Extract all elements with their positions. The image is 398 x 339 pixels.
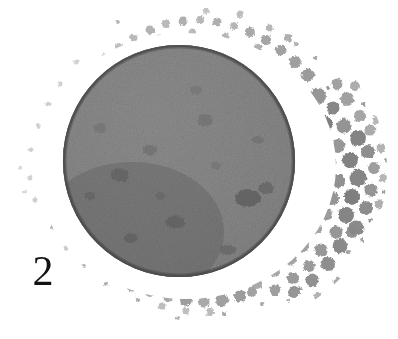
figure-number-label: 2 <box>28 249 58 293</box>
ovum-illustration <box>0 0 398 339</box>
illustration-plate: 2 <box>0 0 398 339</box>
